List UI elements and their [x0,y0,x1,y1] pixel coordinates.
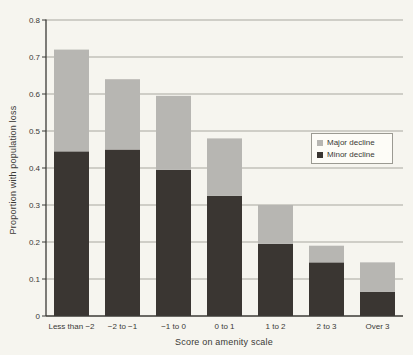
x-category-label: Less than −2 [48,322,95,331]
legend-label-major: Major decline [327,138,375,147]
bar-segment-minor [258,244,293,316]
bar-segment-minor [54,151,89,316]
y-tick-label: 0.8 [29,16,41,25]
legend-swatch-major-icon [317,140,323,146]
x-category-label: 1 to 2 [265,322,286,331]
legend: Major decline Minor decline [311,133,393,164]
x-category-label: 0 to 1 [214,322,235,331]
bar-segment-major [54,50,89,152]
bar-segment-major [105,79,140,149]
bar-segment-minor [309,262,344,316]
figure: Less than −2−2 to −1−1 to 00 to 11 to 22… [0,0,413,355]
x-category-label: Over 3 [365,322,390,331]
y-tick-label: 0.1 [29,275,41,284]
x-category-label: 2 to 3 [316,322,337,331]
bar-segment-major [258,205,293,244]
y-tick-label: 0.6 [29,90,41,99]
legend-label-minor: Minor decline [327,150,375,159]
y-tick-label: 0.4 [29,164,41,173]
x-axis-title: Score on amenity scale [175,337,273,347]
y-tick-label: 0.5 [29,127,41,136]
x-category-label: −2 to −1 [108,322,138,331]
bar-segment-major [309,246,344,263]
legend-item-minor-decline: Minor decline [317,150,387,159]
bar-segment-minor [156,170,191,316]
bar-segment-major [156,96,191,170]
y-tick-label: 0 [36,312,41,321]
bar-segment-major [360,262,395,292]
y-tick-label: 0.7 [29,53,41,62]
y-tick-label: 0.2 [29,238,41,247]
y-axis-title: Proportion with population loss [8,106,18,235]
bar-segment-minor [207,196,242,316]
bar-segment-major [207,138,242,195]
stacked-bar-chart: Less than −2−2 to −1−1 to 00 to 11 to 22… [0,0,413,355]
legend-item-major-decline: Major decline [317,138,387,147]
y-tick-label: 0.3 [29,201,41,210]
x-category-label: −1 to 0 [161,322,186,331]
bar-segment-minor [360,292,395,316]
legend-swatch-minor-icon [317,152,323,158]
bar-segment-minor [105,150,140,317]
